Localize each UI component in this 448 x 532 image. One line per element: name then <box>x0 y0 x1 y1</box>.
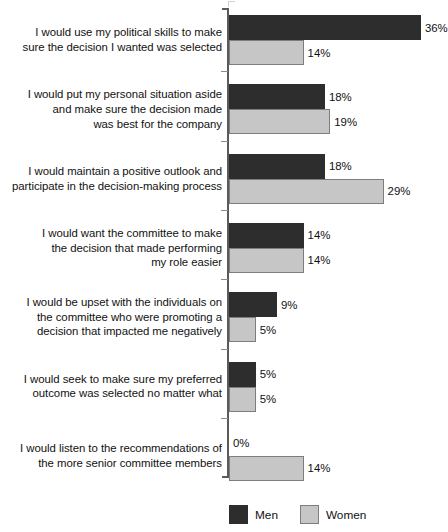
bar-men[interactable] <box>229 84 325 109</box>
bar-group: I would seek to make sure my preferredou… <box>0 362 448 412</box>
category-label-line: I would be upset with the individuals on <box>4 295 222 310</box>
bar-value-label: 9% <box>277 299 297 311</box>
bar-men[interactable] <box>229 362 256 387</box>
category-label-line: participate in the decision-making proce… <box>4 179 222 194</box>
bar-women[interactable] <box>229 317 256 342</box>
bar-group: I would put my personal situation asidea… <box>0 84 448 134</box>
bar-value-label: 14% <box>304 462 331 474</box>
bar-value-label: 18% <box>325 160 352 172</box>
axis-tick <box>221 141 228 142</box>
category-label-line: I would listen to the recommendations of <box>4 441 222 456</box>
legend-label: Women <box>326 508 366 522</box>
men-swatch <box>229 505 248 524</box>
bar-value-label: 14% <box>304 47 331 59</box>
category-label-line: was best for the company <box>4 117 222 132</box>
axis-tick <box>221 279 228 280</box>
bar-group: I would be upset with the individuals on… <box>0 292 448 342</box>
category-label-line: outcome was selected no matter what <box>4 386 222 401</box>
bar-women[interactable] <box>229 248 304 273</box>
category-label: I would listen to the recommendations of… <box>4 441 222 470</box>
bar-value-label: 5% <box>256 368 276 380</box>
category-label-line: my role easier <box>4 255 222 270</box>
category-label: I would maintain a positive outlook andp… <box>4 164 222 193</box>
category-label-line: I would want the committee to make <box>4 226 222 241</box>
bar-value-label: 18% <box>325 91 352 103</box>
bar-value-label: 36% <box>421 22 448 34</box>
chart-legend: MenWomen <box>229 505 388 524</box>
category-label-line: the committee who were promoting a <box>4 310 222 325</box>
bar-group: I would maintain a positive outlook andp… <box>0 154 448 204</box>
bar-women[interactable] <box>229 387 256 412</box>
bar-value-label: 14% <box>304 254 331 266</box>
bar-value-label: 14% <box>304 229 331 241</box>
bar-value-label: 5% <box>256 393 276 405</box>
bar-value-label: 19% <box>330 116 357 128</box>
category-label-line: I would use my political skills to make <box>4 25 222 40</box>
category-label-line: and make sure the decision made <box>4 102 222 117</box>
category-label: I would put my personal situation asidea… <box>4 87 222 131</box>
bar-women[interactable] <box>229 179 384 204</box>
category-label: I would use my political skills to makes… <box>4 25 222 54</box>
axis-tick <box>221 210 228 211</box>
plot-area: I would use my political skills to makes… <box>0 0 448 495</box>
category-label-line: sure the decision I wanted was selected <box>4 40 222 55</box>
axis-tick <box>221 349 228 350</box>
bar-value-label: 0% <box>229 437 249 449</box>
category-label-line: I would maintain a positive outlook and <box>4 164 222 179</box>
scan-artifact <box>228 1 235 7</box>
bar-chart: I would use my political skills to makes… <box>0 0 448 532</box>
category-label: I would be upset with the individuals on… <box>4 295 222 339</box>
bar-men[interactable] <box>229 292 277 317</box>
bar-group: I would want the committee to makethe de… <box>0 223 448 273</box>
legend-item-men[interactable]: Men <box>229 505 278 524</box>
bar-women[interactable] <box>229 109 330 134</box>
category-label: I would want the committee to makethe de… <box>4 226 222 270</box>
category-label-line: the decision that made performing <box>4 241 222 256</box>
category-label-line: I would put my personal situation aside <box>4 87 222 102</box>
bar-group: I would listen to the recommendations of… <box>0 431 448 481</box>
category-label-line: the more senior committee members <box>4 456 222 471</box>
bar-value-label: 29% <box>384 185 411 197</box>
legend-label: Men <box>255 508 278 522</box>
category-label: I would seek to make sure my preferredou… <box>4 372 222 401</box>
category-label-line: decision that impacted me negatively <box>4 324 222 339</box>
bar-men[interactable] <box>229 223 304 248</box>
axis-top-cap <box>222 8 229 10</box>
bar-group: I would use my political skills to makes… <box>0 15 448 65</box>
axis-tick <box>221 71 228 72</box>
bar-men[interactable] <box>229 154 325 179</box>
category-label-line: I would seek to make sure my preferred <box>4 372 222 387</box>
bar-women[interactable] <box>229 456 304 481</box>
axis-tick <box>221 418 228 419</box>
bar-value-label: 5% <box>256 324 276 336</box>
bar-men[interactable] <box>229 15 421 40</box>
bar-women[interactable] <box>229 40 304 65</box>
legend-item-women[interactable]: Women <box>300 505 366 524</box>
women-swatch <box>300 505 319 524</box>
